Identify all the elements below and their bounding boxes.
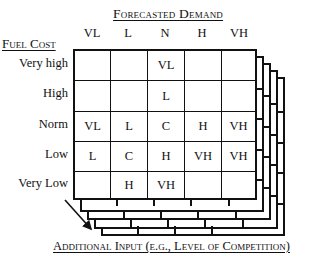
main-lookup-grid: VL L VL L C H VH L C H VH VH H VH: [73, 49, 257, 200]
row-header-norm: Norm: [0, 117, 68, 132]
column-header-vh: VH: [220, 26, 258, 41]
layer-tick: [204, 218, 206, 227]
grid-cell: L: [148, 81, 185, 112]
grid-cell: [75, 51, 111, 81]
grid-cell: VH: [185, 142, 222, 172]
grid-cell: VL: [75, 112, 111, 142]
depth-axis-title: Additional Input (e.g., Level of Competi…: [53, 239, 290, 254]
grid-cell: [222, 172, 255, 198]
layer-tick: [270, 103, 278, 105]
row-header-high: High: [0, 86, 68, 101]
grid-cell: [111, 81, 148, 112]
grid-cell: [185, 51, 222, 81]
row-header-very-high: Very high: [0, 56, 68, 71]
column-header-l: L: [109, 26, 147, 41]
layer-tick: [130, 218, 132, 227]
grid-cell: [111, 51, 148, 81]
layer-tick: [263, 126, 271, 128]
layer-tick: [277, 142, 285, 144]
layer-tick: [167, 218, 169, 227]
grid-cell: VH: [222, 142, 255, 172]
row-axis-title: Fuel Cost: [2, 36, 56, 52]
grid-cell: [222, 51, 255, 81]
layer-tick: [270, 134, 278, 136]
column-header-h: H: [183, 26, 221, 41]
layer-tick: [270, 164, 278, 166]
layer-tick: [256, 118, 264, 120]
grid-cell: [185, 81, 222, 112]
layer-tick: [277, 172, 285, 174]
grid-cell: L: [75, 142, 111, 172]
layer-tick: [235, 210, 237, 218]
layer-tick: [277, 203, 285, 205]
layer-tick: [123, 210, 125, 218]
depth-arrow-icon: [60, 196, 100, 236]
grid-cell: L: [111, 112, 148, 142]
grid-cell: C: [111, 142, 148, 172]
grid-cell: [222, 81, 255, 112]
grid-cell: VL: [148, 51, 185, 81]
grid-cell: VH: [148, 172, 185, 198]
layer-tick: [211, 226, 213, 235]
layer-tick: [197, 210, 199, 218]
grid-cell: [75, 172, 111, 198]
grid-cell: C: [148, 112, 185, 142]
layer-tick: [160, 210, 162, 218]
grid-cell: VH: [222, 112, 255, 142]
layer-tick: [263, 95, 271, 97]
layer-tick: [174, 226, 176, 235]
grid-cell: H: [111, 172, 148, 198]
layer-tick: [242, 218, 244, 227]
layer-tick: [256, 88, 264, 90]
layer-tick: [270, 195, 278, 197]
layer-tick: [256, 179, 264, 181]
grid-cell: H: [185, 112, 222, 142]
layer-tick: [256, 149, 264, 151]
layer-tick: [263, 187, 271, 189]
grid-cell: H: [148, 142, 185, 172]
layer-tick: [137, 226, 139, 235]
layer-tick: [277, 111, 285, 113]
grid-cell: [185, 172, 222, 198]
column-header-vl: VL: [73, 26, 111, 41]
layer-tick: [263, 156, 271, 158]
row-header-low: Low: [0, 147, 68, 162]
column-axis-title: Forecasted Demand: [113, 6, 223, 22]
row-header-very-low: Very Low: [0, 176, 68, 191]
grid-cell: [75, 81, 111, 112]
column-header-n: N: [146, 26, 184, 41]
